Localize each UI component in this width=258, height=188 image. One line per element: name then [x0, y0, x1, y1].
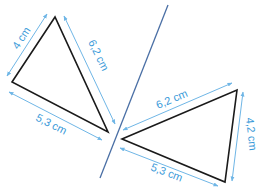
label-right-4-2cm: 4,2 cm: [244, 117, 258, 151]
dimension-arrow-bottom-side: [9, 92, 102, 140]
label-left-4cm: 4 cm: [10, 25, 33, 52]
label-right-6-2cm: 6,2 cm: [154, 87, 189, 111]
dimension-arrow-right-side: [64, 16, 115, 124]
mirror-line: [100, 5, 168, 178]
dimension-arrow-right-side: [232, 92, 243, 181]
label-left-6-2cm: 6,2 cm: [86, 38, 111, 73]
reflection-diagram: 4 cm 6,2 cm 5,3 cm 6,2 cm 4,2 cm 5,3 cm: [0, 0, 258, 188]
label-left-5-3cm: 5,3 cm: [34, 111, 69, 137]
label-right-5-3cm: 5,3 cm: [149, 161, 184, 184]
